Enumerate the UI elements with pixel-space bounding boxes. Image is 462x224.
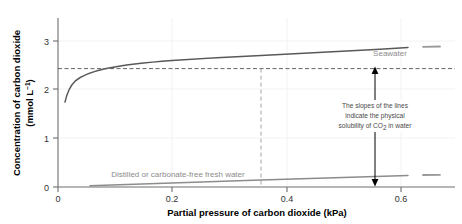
x-tick-label-0.6: 0.6 [395,194,408,204]
x-tick-label-0.2: 0.2 [166,194,179,204]
x-axis-title: Partial pressure of carbon dioxide (kPa) [167,207,347,218]
co2-solubility-chart: 0 1 2 3 0 0.2 0.4 0.6 Partial pressure o… [0,0,462,224]
annotation-line-2: indicate the physical [345,112,405,120]
y-axis-title-unit: (mmol L [24,90,35,127]
y-axis-title-line1: Concentration of carbon dioxide [11,30,22,176]
y-tick-label-1: 1 [44,134,49,144]
y-axis-title-close: ) [24,79,35,82]
chart-figure: 0 1 2 3 0 0.2 0.4 0.6 Partial pressure o… [0,0,462,224]
y-tick-label-2: 2 [44,85,49,95]
x-tick-label-0: 0 [55,194,60,204]
series-label-freshwater: Distilled or carbonate-free fresh water [111,170,245,179]
annotation-line-3-pre: solubility of CO [339,122,383,130]
annotation-line-3-post: in water [387,122,413,129]
series-label-seawater: Seawater [373,49,407,58]
x-tick-label-0.4: 0.4 [281,194,294,204]
y-tick-label-0: 0 [44,183,49,193]
annotation-line-1: The slopes of the lines [342,102,409,110]
y-tick-label-3: 3 [44,37,49,47]
